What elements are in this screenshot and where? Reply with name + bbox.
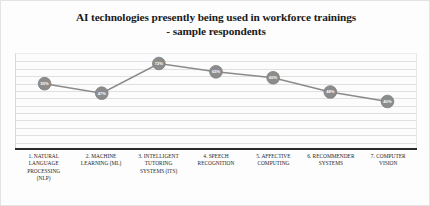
chart-title-line-2: - sample respondents [21, 24, 411, 38]
category-label-2: 2. MACHINELEARNING (ML) [72, 153, 129, 168]
data-point[interactable]: 60% [267, 71, 280, 84]
data-point-label: 48% [326, 89, 335, 94]
data-point-label: 60% [269, 75, 278, 80]
chart-container: AI technologies presently being used in … [0, 0, 430, 206]
category-label-line: 2. MACHINE [73, 153, 128, 160]
category-label-line: 6. RECOMMENDER [303, 153, 358, 160]
category-label-line: LANGUAGE [16, 160, 71, 167]
category-label-line: SYSTEMS [303, 160, 358, 167]
category-label-line: RECOGNITION [188, 160, 243, 167]
category-label-line: 7. COMPUTER [361, 153, 416, 160]
data-point[interactable]: 48% [324, 86, 337, 99]
data-point-label: 55% [41, 81, 50, 86]
category-label-line: COMPUTING [246, 160, 301, 167]
chart-title-line-1: AI technologies presently being used in … [21, 10, 411, 24]
category-label-line: 4. SPEECH [188, 153, 243, 160]
category-label-5: 5. AFFECTIVECOMPUTING [245, 153, 302, 168]
data-point[interactable]: 55% [38, 77, 51, 90]
line-series: 55%47%72%65%60%48%40% [16, 54, 416, 149]
category-label-line: TUTORING [131, 160, 186, 167]
category-label-line: VISION [361, 160, 416, 167]
category-label-line: PROCESSING [16, 168, 71, 175]
category-label-6: 6. RECOMMENDERSYSTEMS [302, 153, 359, 168]
category-label-line: LEARNING (ML) [73, 160, 128, 167]
category-axis: 1. NATURALLANGUAGEPROCESSING(NLP)2. MACH… [15, 153, 417, 183]
data-point[interactable]: 40% [381, 95, 394, 108]
plot-area: 55%47%72%65%60%48%40% [15, 53, 417, 149]
category-label-line: 1. NATURAL [16, 153, 71, 160]
category-label-1: 1. NATURALLANGUAGEPROCESSING(NLP) [15, 153, 72, 183]
category-label-4: 4. SPEECHRECOGNITION [187, 153, 244, 168]
category-label-7: 7. COMPUTERVISION [360, 153, 417, 168]
category-label-line: 5. AFFECTIVE [246, 153, 301, 160]
chart-title: AI technologies presently being used in … [21, 10, 411, 38]
data-point[interactable]: 47% [95, 87, 108, 100]
data-point[interactable]: 72% [152, 57, 165, 70]
data-point-label: 65% [212, 69, 221, 74]
category-label-line: (NLP) [16, 175, 71, 182]
data-point[interactable]: 65% [210, 65, 223, 78]
data-point-label: 72% [155, 61, 164, 66]
x-axis-line [15, 148, 417, 150]
category-label-line: SYSTEMS (ITS) [131, 168, 186, 175]
data-point-label: 40% [383, 99, 392, 104]
category-label-3: 3. INTELLIGENTTUTORINGSYSTEMS (ITS) [130, 153, 187, 175]
category-label-line: 3. INTELLIGENT [131, 153, 186, 160]
data-point-label: 47% [98, 91, 107, 96]
